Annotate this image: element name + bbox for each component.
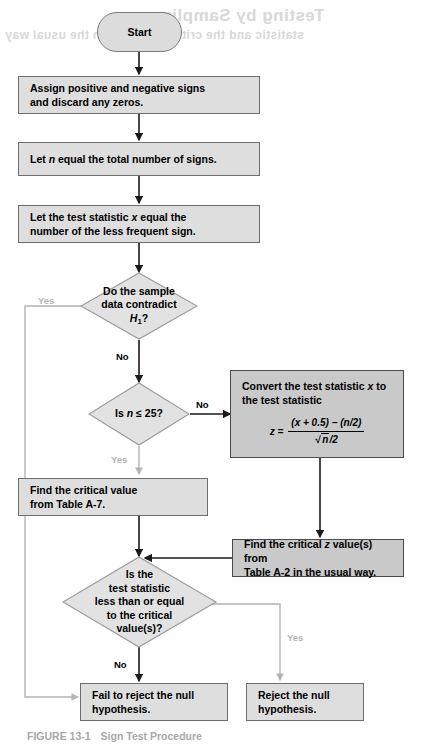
figure-caption-title: Sign Test Procedure bbox=[101, 730, 202, 742]
formula-lhs: z = bbox=[270, 425, 284, 439]
node-find-critical-a2[interactable]: Find the critical z value(s) fromTable A… bbox=[232, 539, 404, 577]
node-reject[interactable]: Reject the nullhypothesis. bbox=[246, 683, 364, 721]
node-let-x[interactable]: Let the test statistic x equal thenumber… bbox=[18, 205, 260, 243]
node-let-n[interactable]: Let n equal the total number of signs. bbox=[18, 142, 260, 176]
node-contradict-label: Do the sampledata contradictH1? bbox=[95, 285, 182, 327]
formula-numerator: (x + 0.5) − (n/2) bbox=[288, 417, 364, 432]
node-let-x-label: Let the test statistic x equal thenumber… bbox=[30, 210, 196, 238]
node-find-critical-a7-label: Find the critical valuefrom Table A-7. bbox=[30, 483, 137, 511]
node-find-critical-a2-label: Find the critical z value(s) fromTable A… bbox=[244, 537, 395, 580]
edge-label-n25-yes: Yes bbox=[111, 455, 127, 465]
node-convert-label: Convert the test statistic x tothe test … bbox=[242, 379, 386, 407]
node-start-label: Start bbox=[128, 25, 152, 39]
figure-canvas: Testing by Sampling statistic and the cr… bbox=[0, 0, 423, 745]
edge-label-contradict-no: No bbox=[116, 352, 129, 362]
node-is-n-le-25-decision[interactable]: Is n ≤ 25? bbox=[88, 382, 190, 446]
node-compare-label: Is thetest statisticless than or equalto… bbox=[89, 568, 190, 636]
node-assign-signs-label: Assign positive and negative signsand di… bbox=[30, 81, 205, 109]
formula-z: z = (x + 0.5) − (n/2) √n/2 bbox=[231, 417, 403, 446]
node-fail-to-reject-label: Fail to reject the nullhypothesis. bbox=[92, 688, 194, 716]
node-find-critical-a7[interactable]: Find the critical valuefrom Table A-7. bbox=[18, 478, 208, 516]
figure-caption-number: FIGURE 13-1 bbox=[27, 730, 91, 742]
edge-label-n25-no: No bbox=[196, 400, 209, 410]
node-start[interactable]: Start bbox=[97, 12, 182, 52]
formula-denominator: √n/2 bbox=[312, 432, 341, 447]
node-is-n-le-25-label: Is n ≤ 25? bbox=[109, 407, 169, 421]
node-let-n-label: Let n equal the total number of signs. bbox=[30, 152, 217, 166]
figure-caption: FIGURE 13-1Sign Test Procedure bbox=[27, 730, 202, 742]
edge-label-compare-yes: Yes bbox=[287, 633, 303, 643]
edge-label-contradict-yes: Yes bbox=[38, 296, 54, 306]
node-compare-decision[interactable]: Is thetest statisticless than or equalto… bbox=[62, 556, 217, 648]
node-contradict-decision[interactable]: Do the sampledata contradictH1? bbox=[80, 272, 198, 340]
node-fail-to-reject[interactable]: Fail to reject the nullhypothesis. bbox=[80, 683, 228, 721]
node-assign-signs[interactable]: Assign positive and negative signsand di… bbox=[18, 76, 260, 114]
node-convert[interactable]: Convert the test statistic x tothe test … bbox=[230, 370, 404, 458]
edge-label-compare-no: No bbox=[114, 660, 127, 670]
node-reject-label: Reject the nullhypothesis. bbox=[258, 688, 330, 716]
